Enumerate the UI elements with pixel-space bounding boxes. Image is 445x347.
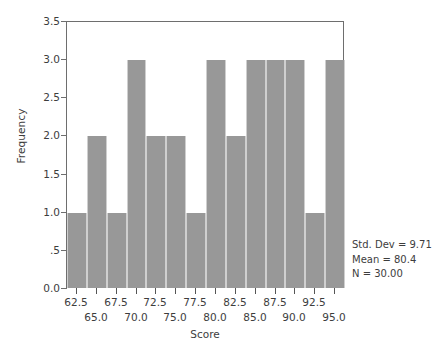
histogram-bar xyxy=(186,213,206,288)
x-tick-mark xyxy=(155,288,156,294)
y-tick-mark xyxy=(61,212,67,213)
histogram-bar xyxy=(305,213,325,288)
histogram-bar xyxy=(166,136,186,288)
histogram-bar xyxy=(146,136,166,288)
statistics-annotation: Std. Dev = 9.71 Mean = 80.4 N = 30.00 xyxy=(352,238,432,282)
y-tick-label: 0.0 xyxy=(20,283,60,294)
stat-mean: Mean = 80.4 xyxy=(352,253,432,268)
x-tick-mark xyxy=(314,288,315,294)
y-tick-label: 1.5 xyxy=(20,169,60,180)
y-tick-label: 3.5 xyxy=(20,16,60,27)
x-tick-label: 95.0 xyxy=(311,312,357,323)
x-tick-mark xyxy=(255,288,256,294)
x-tick-mark xyxy=(76,288,77,294)
histogram-chart: Frequency 0.0.51.01.52.02.53.03.5 62.565… xyxy=(0,0,445,347)
histogram-bar xyxy=(206,60,226,288)
histogram-bar xyxy=(285,60,305,288)
x-tick-mark xyxy=(175,288,176,294)
x-tick-label: 92.5 xyxy=(291,297,337,308)
x-tick-mark xyxy=(215,288,216,294)
x-tick-mark xyxy=(294,288,295,294)
y-tick-mark xyxy=(61,288,67,289)
histogram-bar xyxy=(266,60,286,288)
histogram-bar xyxy=(127,60,147,288)
x-tick-mark xyxy=(195,288,196,294)
y-tick-mark xyxy=(61,250,67,251)
x-tick-mark xyxy=(275,288,276,294)
y-tick-label: 2.0 xyxy=(20,130,60,141)
histogram-bar xyxy=(87,136,107,288)
histogram-bar xyxy=(107,213,127,288)
x-tick-mark xyxy=(96,288,97,294)
y-tick-label: .5 xyxy=(20,245,60,256)
plot-area xyxy=(66,21,344,288)
y-tick-mark xyxy=(61,174,67,175)
y-tick-label: 3.0 xyxy=(20,54,60,65)
stat-n: N = 30.00 xyxy=(352,267,432,282)
histogram-bar xyxy=(325,60,345,288)
x-axis-title: Score xyxy=(66,328,344,340)
histogram-bar xyxy=(246,60,266,288)
histogram-bar xyxy=(67,213,87,288)
y-tick-mark xyxy=(61,135,67,136)
histogram-bar xyxy=(226,136,246,288)
y-tick-label: 1.0 xyxy=(20,207,60,218)
stat-std-dev: Std. Dev = 9.71 xyxy=(352,238,432,253)
y-tick-mark xyxy=(61,21,67,22)
y-tick-mark xyxy=(61,97,67,98)
x-tick-mark xyxy=(136,288,137,294)
x-tick-mark xyxy=(116,288,117,294)
x-tick-mark xyxy=(334,288,335,294)
y-tick-label: 2.5 xyxy=(20,92,60,103)
x-tick-mark xyxy=(235,288,236,294)
y-tick-mark xyxy=(61,59,67,60)
